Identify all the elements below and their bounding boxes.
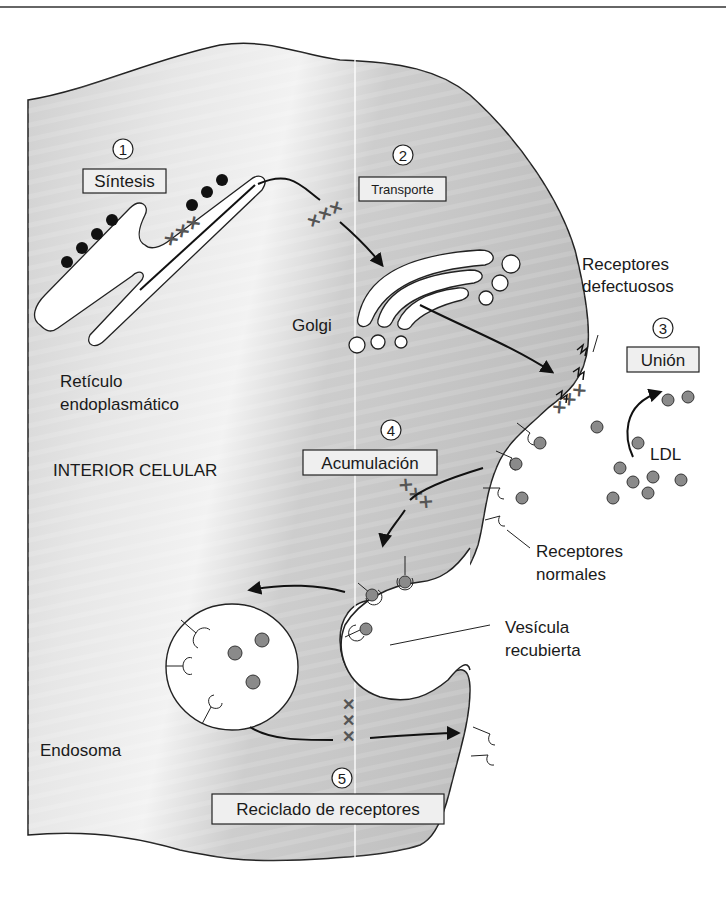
ldl-label: LDL: [650, 445, 681, 464]
defective-receptors-label-line1: Receptores: [582, 255, 669, 274]
defective-receptors-label-line2: defectuosos: [582, 277, 674, 296]
endosome-label: Endosoma: [40, 741, 122, 760]
step-1-number: 1: [119, 141, 127, 158]
coated-vesicle-label-line1: Vesícula: [505, 618, 570, 637]
step-3-label: Unión: [641, 351, 685, 370]
step-1-label: Síntesis: [94, 172, 154, 191]
er-label-line1: Retículo: [60, 372, 122, 391]
step-3-number: 3: [659, 320, 667, 337]
ldl-receptor-diagram: ✕✕✕ ✕✕✕ ✕✕✕ ✕✕✕ ✕ ✕ ✕: [0, 0, 726, 913]
svg-text:✕: ✕: [342, 696, 355, 713]
normal-receptors-label-line1: Receptores: [536, 542, 623, 561]
step-5-number: 5: [338, 770, 346, 787]
svg-text:✕: ✕: [342, 728, 355, 745]
normal-receptors-leader: [507, 530, 530, 548]
step-5-label: Reciclado de receptores: [236, 800, 419, 819]
step-2-number: 2: [399, 147, 407, 164]
golgi-label: Golgi: [292, 316, 332, 335]
interior-label: INTERIOR CELULAR: [53, 461, 217, 480]
step-3: 3 Unión: [627, 318, 699, 372]
defective-receptors-leader: [593, 335, 598, 352]
svg-text:✕: ✕: [342, 712, 355, 729]
coated-vesicle-label-line2: recubierta: [505, 641, 581, 660]
step-4-label: Acumulación: [321, 454, 418, 473]
step-4-number: 4: [387, 422, 395, 439]
normal-receptors-label-line2: normales: [536, 565, 606, 584]
endosome: [166, 604, 298, 730]
step-2-label: Transporte: [371, 182, 433, 197]
er-label-line2: endoplasmático: [60, 395, 179, 414]
blocked-marker-recycling: ✕ ✕ ✕: [342, 696, 355, 745]
